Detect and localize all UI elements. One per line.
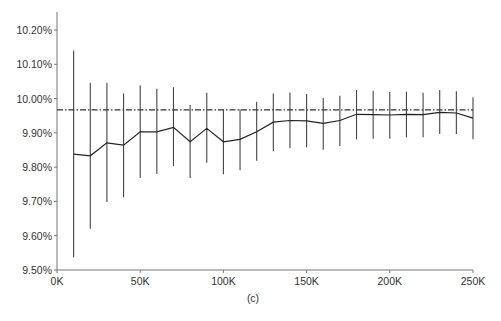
y-axis-ticks: 9.50%9.60%9.70%9.80%9.90%10.00%10.10%10.… <box>16 24 57 276</box>
x-tick-label: 200K <box>378 275 403 287</box>
x-tick-label: 0K <box>51 275 64 287</box>
error-bars <box>74 51 473 258</box>
chart: 9.50%9.60%9.70%9.80%9.90%10.00%10.10%10.… <box>0 0 501 321</box>
y-tick-label: 9.80% <box>22 161 52 173</box>
y-tick-label: 9.90% <box>22 127 52 139</box>
x-tick-label: 150K <box>294 275 319 287</box>
y-tick-label: 9.70% <box>22 195 52 207</box>
x-axis-ticks: 0K50K100K150K200K250K <box>51 270 486 287</box>
y-tick-label: 9.50% <box>22 264 52 276</box>
x-tick-label: 50K <box>131 275 150 287</box>
y-tick-label: 10.20% <box>16 24 52 36</box>
y-tick-label: 10.10% <box>16 58 52 70</box>
y-tick-label: 9.60% <box>22 230 52 242</box>
x-tick-label: 250K <box>461 275 486 287</box>
y-tick-label: 10.00% <box>16 93 52 105</box>
chart-caption: (c) <box>247 292 259 304</box>
axes <box>57 12 473 270</box>
x-tick-label: 100K <box>211 275 236 287</box>
